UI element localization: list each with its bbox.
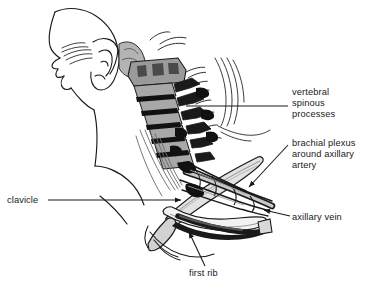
label-clavicle: clavicle bbox=[7, 195, 38, 206]
label-first-rib: first rib bbox=[189, 268, 218, 279]
illustration-canvas: vertebral spinous processes brachial ple… bbox=[0, 0, 366, 289]
label-brachial-plexus-around-axillary-artery: brachial plexus around axillary artery bbox=[292, 138, 356, 172]
label-vertebral-spinous-processes: vertebral spinous processes bbox=[292, 87, 335, 121]
label-axillary-vein: axillary vein bbox=[292, 212, 342, 223]
